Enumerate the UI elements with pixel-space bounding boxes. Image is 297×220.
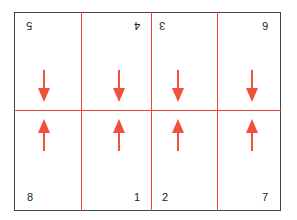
page-number-top-3: 3 — [159, 20, 165, 31]
arrow-down-icon — [112, 70, 126, 102]
fold-line-vertical-3 — [217, 12, 218, 211]
fold-line-vertical-1 — [81, 12, 82, 211]
fold-line-horizontal — [14, 110, 281, 111]
page-number-top-2: 4 — [134, 20, 140, 31]
arrow-down-icon — [171, 70, 185, 102]
page-number-bottom-1: 8 — [27, 192, 33, 203]
page-number-top-1: 5 — [26, 20, 32, 31]
arrow-down-icon — [245, 70, 259, 102]
arrow-down-icon — [37, 70, 51, 102]
arrow-up-icon — [37, 119, 51, 151]
arrow-up-icon — [112, 119, 126, 151]
arrow-up-icon — [245, 119, 259, 151]
page-number-bottom-2: 1 — [134, 192, 140, 203]
arrow-up-icon — [171, 119, 185, 151]
sheet-border — [14, 12, 281, 211]
page-number-bottom-3: 2 — [162, 192, 168, 203]
page-number-bottom-4: 7 — [262, 192, 268, 203]
fold-line-vertical-2 — [151, 12, 152, 211]
page-number-top-4: 6 — [262, 20, 268, 31]
